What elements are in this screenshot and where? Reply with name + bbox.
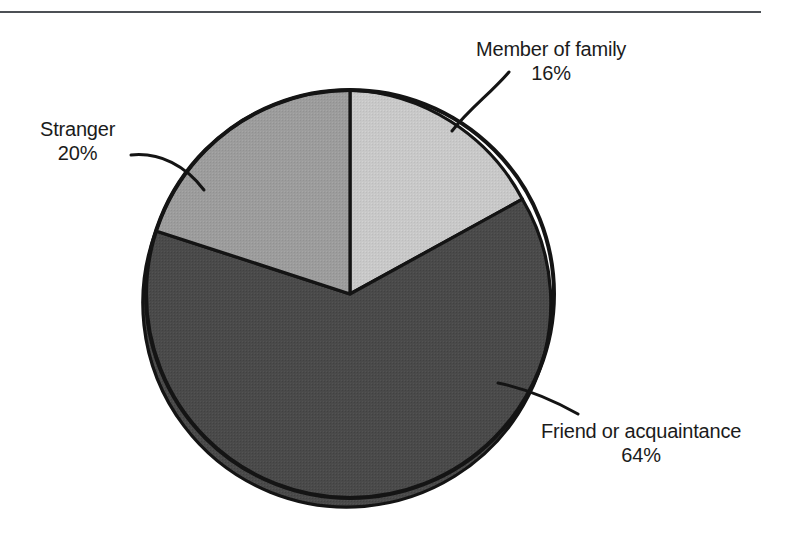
slice-label-member-of-family-name: Member of family — [476, 38, 626, 62]
slice-label-friend-or-acquaintance: Friend or acquaintance 64% — [541, 420, 741, 467]
slice-label-stranger-name: Stranger — [40, 118, 115, 142]
pie-chart-figure: Member of family 16% Stranger 20% Friend… — [0, 0, 787, 541]
slice-label-member-of-family-value: 16% — [476, 62, 626, 86]
slice-label-friend-or-acquaintance-name: Friend or acquaintance — [541, 420, 741, 444]
slice-label-stranger-value: 20% — [40, 142, 115, 166]
slice-label-friend-or-acquaintance-value: 64% — [541, 444, 741, 468]
slice-label-stranger: Stranger 20% — [40, 118, 115, 165]
slice-label-member-of-family: Member of family 16% — [476, 38, 626, 85]
